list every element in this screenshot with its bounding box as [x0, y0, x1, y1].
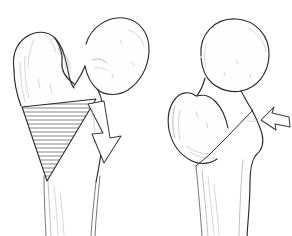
illustration-canvas [0, 0, 292, 236]
femoral-osteotomy-figure [0, 0, 292, 236]
